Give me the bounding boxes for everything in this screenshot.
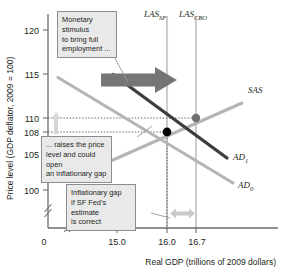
inflationary-gap-callout: Inflationary gap if SF Fed's estimate is… [66, 184, 136, 231]
ad1-label: AD1 [232, 152, 248, 164]
monetary-stimulus-callout: Monetary stimulus to bring full employme… [57, 11, 117, 58]
las-sf-label: LASSF [143, 9, 167, 21]
svg-text:LASSF: LASSF [143, 9, 167, 21]
las-cbo-label-sub: CBO [194, 14, 207, 21]
callout-line: Inflationary gap [71, 188, 131, 198]
las-sf-label-main: LAS [143, 9, 160, 19]
sas-label: SAS [248, 85, 263, 95]
price-rise-arrow [52, 112, 61, 134]
ad0-label-sub: 0 [250, 185, 254, 192]
x-axis-title: Real GDP (trillions of 2009 dollars) [145, 257, 276, 267]
ad0-label: AD0 [237, 180, 254, 192]
callout-line: ... raises the price [46, 140, 107, 150]
gap-arrow [170, 209, 195, 219]
svg-text:AD0: AD0 [237, 180, 254, 192]
y-axis-title: Price level (GDP deflator, 2009 = 100) [5, 57, 15, 200]
callout-line: Monetary stimulus [62, 15, 112, 35]
y-tick-label-2: 110 [25, 114, 39, 124]
x-tick-label-3: 16.7 [188, 237, 206, 247]
callout-line: employment ... [62, 44, 112, 54]
y-tick-label-4: 105 [24, 150, 39, 160]
y-tick-label-3: 108 [24, 128, 39, 138]
callout-line: an inflationary gap [46, 169, 107, 179]
x-tick-label-1: 15.0 [108, 237, 126, 247]
initial-equilibrium-point [163, 128, 172, 137]
callout-line: is correct [71, 217, 131, 227]
callout-line: to bring full [62, 35, 112, 45]
new-equilibrium-point [192, 114, 200, 122]
las-cbo-label-main: LAS [178, 9, 195, 19]
ad-shift-arrow [101, 67, 177, 93]
las-sf-label-sub: SF [159, 14, 167, 21]
las-cbo-label: LASCBO [178, 9, 207, 21]
ad1-label-sub: 1 [245, 157, 248, 164]
price-level-callout: ... raises the price level and could ope… [41, 136, 112, 183]
ad0-label-main: AD [237, 180, 250, 190]
x-tick-label-0: 0 [41, 237, 46, 247]
callout-line: level and could open [46, 150, 107, 170]
figure-canvas: 120 115 110 108 105 100 0 15.0 16.0 16.7… [0, 0, 281, 273]
callout-line: if SF Fed's estimate [71, 198, 131, 218]
y-tick-label-1: 115 [25, 70, 39, 80]
y-tick-label-0: 120 [24, 26, 39, 36]
y-tick-label-5: 100 [24, 186, 39, 196]
svg-text:AD1: AD1 [232, 152, 248, 164]
x-tick-label-2: 16.0 [158, 237, 176, 247]
svg-text:LASCBO: LASCBO [178, 9, 207, 21]
ad1-label-main: AD [232, 152, 245, 162]
